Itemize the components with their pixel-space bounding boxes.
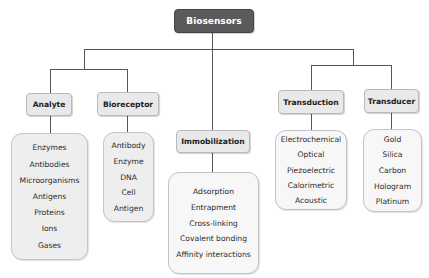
list-item: Piezoelectric <box>287 166 335 175</box>
category-node-bioreceptor: Bioreceptor <box>97 92 159 116</box>
root-node-biosensors: Biosensors <box>174 9 254 33</box>
list-item: Hologram <box>374 182 411 191</box>
list-item: Cell <box>121 188 135 197</box>
category-label: Immobilization <box>181 137 245 146</box>
list-item: Adsorption <box>193 187 234 196</box>
connector-main-horizontal <box>84 49 354 50</box>
list-item: Gases <box>38 241 61 250</box>
category-label: Transduction <box>283 98 338 107</box>
connector-bioreceptor-list <box>127 116 128 132</box>
list-item: Carbon <box>379 166 406 175</box>
category-label: Transducer <box>368 97 415 106</box>
list-item: Enzymes <box>32 143 66 152</box>
connector-bioreceptor-down <box>127 69 128 92</box>
list-transduction: Electrochemical Optical Piezoelectric Ca… <box>275 130 347 210</box>
list-transducer: Gold Silica Carbon Hologram Platinum <box>363 129 422 212</box>
connector-left-horizontal <box>50 69 128 70</box>
root-label: Biosensors <box>186 16 241 26</box>
list-item: Platinum <box>376 197 409 206</box>
connector-transduction-list <box>311 114 312 130</box>
list-item: Ions <box>42 224 58 233</box>
list-bioreceptor: Antibody Enzyme DNA Cell Antigen <box>103 132 154 222</box>
connector-right-down <box>353 49 354 66</box>
connector-transducer-down <box>391 65 392 89</box>
category-node-transducer: Transducer <box>364 89 419 113</box>
connector-root-down <box>212 33 213 130</box>
list-item: Electrochemical <box>281 135 341 144</box>
list-item: Microorganisms <box>20 176 80 185</box>
list-item: Antigens <box>33 192 66 201</box>
list-item: Silica <box>383 150 403 159</box>
connector-right-horizontal <box>311 65 392 66</box>
list-item: Antigen <box>114 204 143 213</box>
connector-transduction-down <box>311 65 312 90</box>
connector-left-down <box>84 49 85 70</box>
list-item: Antibody <box>112 141 146 150</box>
list-immobilization: Adsorption Entrapment Cross-linking Cova… <box>168 172 259 274</box>
list-item: Enzyme <box>113 157 143 166</box>
category-label: Bioreceptor <box>103 100 153 109</box>
category-node-transduction: Transduction <box>278 90 344 114</box>
list-item: DNA <box>120 173 137 182</box>
list-item: Gold <box>384 135 401 144</box>
list-item: Cross-linking <box>189 219 238 228</box>
connector-analyte-down <box>50 69 51 93</box>
category-node-analyte: Analyte <box>26 93 72 116</box>
list-item: Covalent bonding <box>180 234 247 243</box>
list-item: Calorimetric <box>288 181 334 190</box>
list-item: Entrapment <box>191 203 236 212</box>
list-item: Acoustic <box>295 196 327 205</box>
connector-analyte-list <box>50 116 51 133</box>
list-item: Proteins <box>34 208 65 217</box>
connector-transducer-list <box>391 113 392 129</box>
list-item: Optical <box>298 150 325 159</box>
category-label: Analyte <box>33 100 66 109</box>
connector-immobilization-list <box>212 153 213 172</box>
list-analyte: Enzymes Antibodies Microorganisms Antige… <box>11 133 88 260</box>
list-item: Affinity interactions <box>176 250 250 259</box>
list-item: Antibodies <box>29 160 69 169</box>
category-node-immobilization: Immobilization <box>176 130 250 153</box>
